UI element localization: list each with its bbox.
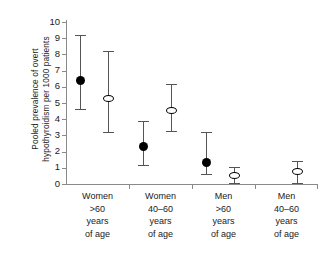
y-axis-tick xyxy=(62,103,67,104)
data-point-open xyxy=(229,172,240,179)
x-axis-category-label-line: years xyxy=(192,215,255,228)
x-axis-category-label-line: of age xyxy=(192,228,255,241)
data-point-filled xyxy=(76,76,85,85)
x-axis-category-label-line: of age xyxy=(66,228,129,241)
error-bar-cap xyxy=(201,132,212,133)
y-axis-tick-label: 0 xyxy=(38,178,60,190)
error-bar-cap xyxy=(103,132,114,133)
x-axis-category-label-line: 40–60 xyxy=(129,203,192,216)
chart-figure: Pooled prevalence of overt hypothyroidis… xyxy=(0,0,324,256)
y-axis-tick-label: 3 xyxy=(38,129,60,141)
error-bar-cap xyxy=(103,51,114,52)
y-axis-tick-label: 5 xyxy=(38,97,60,109)
x-axis-category-label-line: >60 xyxy=(192,203,255,216)
x-axis-tick xyxy=(317,184,318,189)
x-axis-tick xyxy=(129,184,130,189)
error-bar-cap xyxy=(75,35,86,36)
x-axis-category-label-line: years xyxy=(129,215,192,228)
x-axis-tick xyxy=(192,184,193,189)
error-bar-cap xyxy=(166,131,177,132)
error-bar xyxy=(206,132,207,174)
x-axis-category-label-line: years xyxy=(66,215,129,228)
y-axis-tick-label: 2 xyxy=(38,145,60,157)
y-axis-tick-label: 7 xyxy=(38,64,60,76)
y-axis-tick xyxy=(62,168,67,169)
error-bar-cap xyxy=(138,165,149,166)
error-bar-cap xyxy=(138,121,149,122)
x-axis-category-label-line: Men xyxy=(255,190,318,203)
x-axis-category-label-line: of age xyxy=(255,228,318,241)
y-axis-tick xyxy=(62,54,67,55)
data-point-open xyxy=(292,168,303,175)
error-bar-cap xyxy=(75,109,86,110)
y-axis-tick-label: 8 xyxy=(38,48,60,60)
x-axis-category-label-line: >60 xyxy=(66,203,129,216)
data-point-filled xyxy=(202,158,211,167)
error-bar xyxy=(108,51,109,132)
y-axis-tick xyxy=(62,152,67,153)
y-axis-title: Pooled prevalence of overt hypothyroidis… xyxy=(0,0,34,196)
x-axis-category-label-line: of age xyxy=(129,228,192,241)
error-bar-cap xyxy=(292,183,303,184)
x-axis-category-label: Women>60yearsof age xyxy=(66,190,129,240)
error-bar-cap xyxy=(166,84,177,85)
data-point-open xyxy=(166,107,177,114)
y-axis-tick-label: 4 xyxy=(38,113,60,125)
x-axis-category-label-line: Men xyxy=(192,190,255,203)
x-axis-category-label: Women40–60yearsof age xyxy=(129,190,192,240)
y-axis-tick xyxy=(62,22,67,23)
x-axis-category-label-line: years xyxy=(255,215,318,228)
error-bar xyxy=(80,35,81,110)
error-bar-cap xyxy=(292,161,303,162)
x-axis-category-label: Men40–60yearsof age xyxy=(255,190,318,240)
y-axis-tick-label: 9 xyxy=(38,32,60,44)
error-bar-cap xyxy=(229,183,240,184)
y-axis-tick xyxy=(62,71,67,72)
x-axis-tick xyxy=(255,184,256,189)
y-axis-tick-label: 1 xyxy=(38,161,60,173)
y-axis-tick xyxy=(62,135,67,136)
y-axis-tick xyxy=(62,87,67,88)
data-point-filled xyxy=(139,142,148,151)
x-axis-category-labels: Women>60yearsof ageWomen40–60yearsof age… xyxy=(66,190,318,254)
y-axis-tick-label: 6 xyxy=(38,80,60,92)
x-axis-category-label-line: 40–60 xyxy=(255,203,318,216)
x-axis-category-label-line: Women xyxy=(129,190,192,203)
error-bar-cap xyxy=(229,167,240,168)
error-bar-cap xyxy=(201,174,212,175)
y-axis-tick xyxy=(62,184,67,185)
y-axis-tick xyxy=(62,119,67,120)
x-axis-category-label-line: Women xyxy=(66,190,129,203)
y-axis-tick-label: 10 xyxy=(38,16,60,28)
x-axis-category-label: Men>60yearsof age xyxy=(192,190,255,240)
plot-area: 012345678910 xyxy=(66,20,318,185)
y-axis-tick xyxy=(62,38,67,39)
data-point-open xyxy=(103,95,114,102)
